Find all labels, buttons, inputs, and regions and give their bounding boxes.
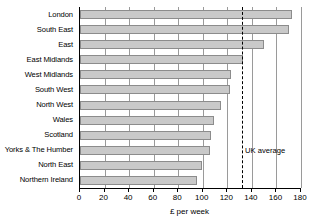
bar: [80, 70, 231, 79]
bar: [80, 10, 292, 19]
bar-slot: [80, 22, 301, 37]
category-label: North East: [0, 158, 76, 173]
x-tick-label: 0: [77, 193, 81, 202]
x-tick: [251, 189, 252, 192]
bar: [80, 161, 202, 170]
x-axis-ticks: 020406080100120140160180: [79, 189, 300, 193]
x-axis-title: £ per week: [79, 207, 300, 216]
category-label: South East: [0, 22, 76, 37]
gridline: [301, 7, 302, 188]
bar-chart: LondonSouth EastEastEast MidlandsWest Mi…: [0, 0, 313, 224]
bar-slot: [80, 113, 301, 128]
category-label: Wales: [0, 113, 76, 128]
x-tick: [104, 189, 105, 192]
category-label: West Midlands: [0, 67, 76, 82]
category-label: South West: [0, 82, 76, 97]
x-tick-label: 80: [173, 193, 182, 202]
category-label: East Midlands: [0, 52, 76, 67]
category-label: North West: [0, 97, 76, 112]
bar: [80, 40, 264, 49]
category-label: London: [0, 7, 76, 22]
bar: [80, 116, 214, 125]
x-tick-label: 140: [244, 193, 257, 202]
x-tick-label: 20: [99, 193, 108, 202]
bar-slot: [80, 158, 301, 173]
x-tick-label: 40: [124, 193, 133, 202]
category-axis: LondonSouth EastEastEast MidlandsWest Mi…: [0, 7, 76, 188]
x-tick-label: 180: [293, 193, 306, 202]
plot-area: UK average: [79, 7, 301, 188]
bar-slot: [80, 7, 301, 22]
bar-slot: [80, 52, 301, 67]
category-label: Northern Ireland: [0, 173, 76, 188]
x-tick: [226, 189, 227, 192]
bar-slot: [80, 82, 301, 97]
bar-slot: [80, 67, 301, 82]
x-tick-label: 160: [269, 193, 282, 202]
uk-average-label: UK average: [245, 147, 285, 155]
bar: [80, 176, 197, 185]
x-tick-label: 120: [220, 193, 233, 202]
bar: [80, 146, 210, 155]
x-tick: [202, 189, 203, 192]
x-tick-label: 100: [195, 193, 208, 202]
uk-average-line: [242, 7, 243, 188]
bar: [80, 131, 211, 140]
x-tick: [79, 189, 80, 192]
chart-title: [0, 0, 313, 1]
x-tick: [275, 189, 276, 192]
x-tick: [300, 189, 301, 192]
bar-slot: [80, 97, 301, 112]
bar-slot: [80, 37, 301, 52]
bar-series: [80, 7, 301, 188]
x-tick-label: 60: [148, 193, 157, 202]
bar: [80, 55, 243, 64]
bar: [80, 101, 221, 110]
bar-slot: [80, 128, 301, 143]
bar: [80, 25, 289, 34]
category-label: East: [0, 37, 76, 52]
bar-slot: [80, 173, 301, 188]
bar: [80, 85, 230, 94]
x-tick: [177, 189, 178, 192]
x-tick: [153, 189, 154, 192]
x-tick: [128, 189, 129, 192]
category-label: Yorks & The Humber: [0, 143, 76, 158]
category-label: Scotland: [0, 128, 76, 143]
